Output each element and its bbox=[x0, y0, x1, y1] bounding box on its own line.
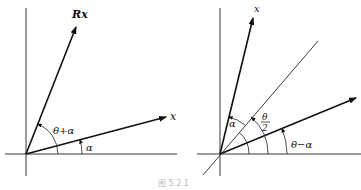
vector-x-arrow bbox=[26, 117, 166, 154]
angle-alpha-label-right: α bbox=[229, 118, 236, 129]
vector-x-arrow-right bbox=[220, 18, 253, 154]
reflected-vector-arrow bbox=[220, 98, 356, 154]
left-panel: Rx x θ+α α bbox=[5, 8, 177, 176]
angle-diff-arc bbox=[282, 129, 287, 155]
rotation-reflection-diagram: Rx x θ+α α x α θ 2 θ−α 图 5.2.1 bbox=[0, 0, 361, 190]
angle-alpha-arc bbox=[80, 140, 82, 154]
angle-diff-label: θ−α bbox=[291, 139, 312, 150]
rotated-vector-label: Rx bbox=[71, 8, 88, 21]
right-panel: x α θ 2 θ−α bbox=[197, 3, 361, 176]
half-angle-denominator: 2 bbox=[261, 123, 268, 133]
vector-x-label-right: x bbox=[254, 3, 260, 14]
angle-sum-label: θ+α bbox=[53, 125, 74, 136]
half-angle-numerator: θ bbox=[262, 112, 268, 122]
angle-alpha-label: α bbox=[86, 142, 93, 153]
vector-x-label: x bbox=[170, 110, 177, 123]
figure-caption: 图 5.2.1 bbox=[158, 179, 189, 188]
